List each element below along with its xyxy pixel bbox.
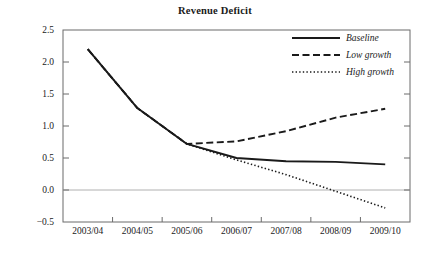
y-axis-tick-label: 1.0: [42, 121, 54, 131]
y-axis-tick-labels: 2.52.01.51.00.50.0−0.5: [37, 25, 54, 227]
legend-label: High growth: [345, 67, 394, 77]
legend-label: Low growth: [345, 50, 392, 60]
y-axis-tick-label: −0.5: [37, 217, 54, 227]
x-axis-tick-label: 2007/08: [271, 226, 302, 236]
y-axis-tick-label: 0.5: [42, 153, 54, 163]
x-axis-tick-label: 2004/05: [122, 226, 153, 236]
chart-legend: BaselineLow growthHigh growth: [292, 33, 394, 77]
series-line: [88, 49, 385, 144]
y-axis-tick-label: 2.5: [42, 25, 54, 35]
x-axis-tick-label: 2005/06: [171, 226, 202, 236]
x-axis-ticks: [113, 217, 361, 222]
data-series-group: [88, 49, 385, 208]
y-axis-tick-label: 2.0: [42, 57, 54, 67]
x-axis-tick-label: 2009/10: [370, 226, 401, 236]
x-axis-tick-label: 2006/07: [221, 226, 252, 236]
y-axis-tick-label: 1.5: [42, 89, 54, 99]
chart-plot-area: 2.52.01.51.00.50.0−0.5 2003/042004/05200…: [0, 0, 430, 254]
series-line: [88, 49, 385, 164]
x-axis-tick-labels: 2003/042004/052005/062006/072007/082008/…: [72, 226, 401, 236]
x-axis-tick-label: 2008/09: [320, 226, 351, 236]
x-axis-tick-label: 2003/04: [72, 226, 103, 236]
chart-container: Revenue Deficit 2.52.01.51.00.50.0−0.5 2…: [0, 0, 430, 254]
y-axis-tick-label: 0.0: [42, 185, 54, 195]
series-line: [88, 49, 385, 208]
legend-label: Baseline: [346, 33, 379, 43]
